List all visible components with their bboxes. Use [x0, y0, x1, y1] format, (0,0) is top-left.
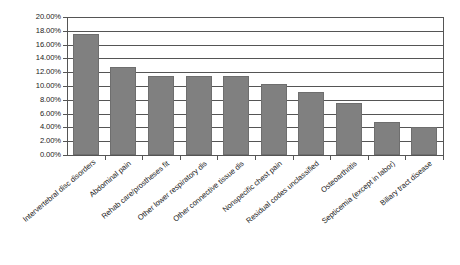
- bar[interactable]: [298, 92, 324, 155]
- x-axis-tick: [105, 156, 106, 160]
- bar[interactable]: [336, 103, 362, 155]
- x-axis-tick: [142, 156, 143, 160]
- x-axis-tick: [293, 156, 294, 160]
- bar[interactable]: [223, 76, 249, 155]
- y-axis-label: 6.00%: [40, 109, 61, 118]
- x-axis-tick: [217, 156, 218, 160]
- y-axis-label: 12.00%: [36, 67, 61, 76]
- x-axis-tick: [405, 156, 406, 160]
- bar[interactable]: [110, 67, 136, 155]
- x-axis-tick: [368, 156, 369, 160]
- bar[interactable]: [148, 76, 174, 155]
- gridline: [67, 17, 443, 18]
- bar[interactable]: [374, 122, 400, 155]
- plot-right-border: [443, 17, 444, 156]
- x-axis-tick: [255, 156, 256, 160]
- y-axis-line: [67, 17, 68, 156]
- y-axis-label: 4.00%: [40, 122, 61, 131]
- y-axis-label: 18.00%: [36, 26, 61, 35]
- gridline: [67, 45, 443, 46]
- bar[interactable]: [186, 76, 212, 155]
- bar[interactable]: [73, 34, 99, 155]
- y-axis-label: 8.00%: [40, 95, 61, 104]
- gridline: [67, 31, 443, 32]
- gridline: [67, 58, 443, 59]
- bar[interactable]: [411, 127, 437, 155]
- y-axis-label: 14.00%: [36, 53, 61, 62]
- y-axis-label: 0.00%: [40, 150, 61, 159]
- y-axis-label: 10.00%: [36, 81, 61, 90]
- bar-chart: 20.00%18.00%16.00%14.00%12.00%10.00%8.00…: [0, 0, 460, 265]
- x-axis-label: Intervertebral disc disorders: [21, 159, 96, 224]
- x-axis-tick: [443, 156, 444, 160]
- y-axis-label: 20.00%: [36, 12, 61, 21]
- x-axis-tick: [330, 156, 331, 160]
- bar[interactable]: [261, 84, 287, 155]
- y-axis-label: 2.00%: [40, 136, 61, 145]
- y-axis-label: 16.00%: [36, 40, 61, 49]
- x-axis-tick: [180, 156, 181, 160]
